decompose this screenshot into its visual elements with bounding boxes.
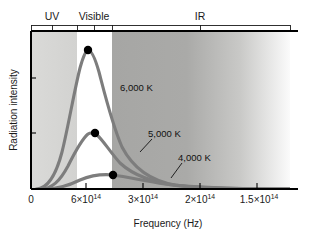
chart-svg: UV Visible IR 6,000 K 5,000 K 4,000 K xyxy=(0,0,314,237)
y-axis-title: Radiation intensity xyxy=(8,69,19,151)
x-tick-label-1p5e14: 1.5×1014 xyxy=(240,193,279,205)
x-tick-label-6e14: 6×1014 xyxy=(71,193,101,205)
band-label-ir: IR xyxy=(195,10,206,22)
peak-marker-5000k xyxy=(91,129,99,137)
band-label-visible: Visible xyxy=(79,10,110,22)
band-label-uv: UV xyxy=(45,10,60,22)
peak-marker-6000k xyxy=(84,46,92,54)
x-tick-label-2e14: 2×1014 xyxy=(185,193,215,205)
curve-label-5000k: 5,000 K xyxy=(148,128,181,139)
curve-label-4000k: 4,000 K xyxy=(178,152,211,163)
band-visible-fill xyxy=(77,31,112,189)
spectrum-brackets xyxy=(31,25,290,31)
x-tick-label-3e14: 3×1014 xyxy=(128,193,158,205)
band-ir-fill xyxy=(112,31,290,189)
curve-label-6000k: 6,000 K xyxy=(120,82,153,93)
blackbody-radiation-chart: UV Visible IR 6,000 K 5,000 K 4,000 K xyxy=(0,0,314,237)
x-axis-title: Frequency (Hz) xyxy=(134,218,203,229)
x-tick-label-0: 0 xyxy=(28,194,34,205)
peak-marker-4000k xyxy=(109,171,117,179)
